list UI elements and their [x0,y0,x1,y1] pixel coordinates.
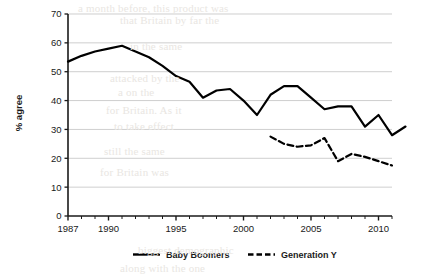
legend-label-generation-y: Generation Y [281,250,337,260]
x-tick-label: 2005 [300,223,321,234]
y-tick-label: 70 [51,8,62,19]
series-line-generation-y [271,137,393,166]
x-tick-label: 1987 [57,223,78,234]
x-tick-label: 1990 [98,223,119,234]
gridlines [68,14,392,187]
legend-label-baby-boomers: Baby Boomers [166,250,230,260]
y-tick-label: 40 [51,95,62,106]
chart-legend: Baby BoomersGeneration Y [133,250,337,260]
y-tick-label: 20 [51,153,62,164]
y-axis-ticks: 010203040506070 [51,8,68,221]
y-tick-label: 10 [51,182,62,193]
y-tick-label: 0 [56,210,61,221]
y-tick-label: 30 [51,124,62,135]
series-line-baby-boomers [68,46,406,135]
y-axis-title: % agree [13,95,24,131]
x-axis-ticks: 198719901995200020052010 [57,216,392,234]
y-tick-label: 60 [51,37,62,48]
data-series-layer [68,46,406,166]
chart-container: a month before, this product was that Br… [0,0,424,276]
x-tick-label: 1995 [165,223,186,234]
x-tick-label: 2010 [368,223,389,234]
y-tick-label: 50 [51,66,62,77]
x-tick-label: 2000 [233,223,254,234]
line-chart: 010203040506070 198719901995200020052010… [0,0,424,276]
